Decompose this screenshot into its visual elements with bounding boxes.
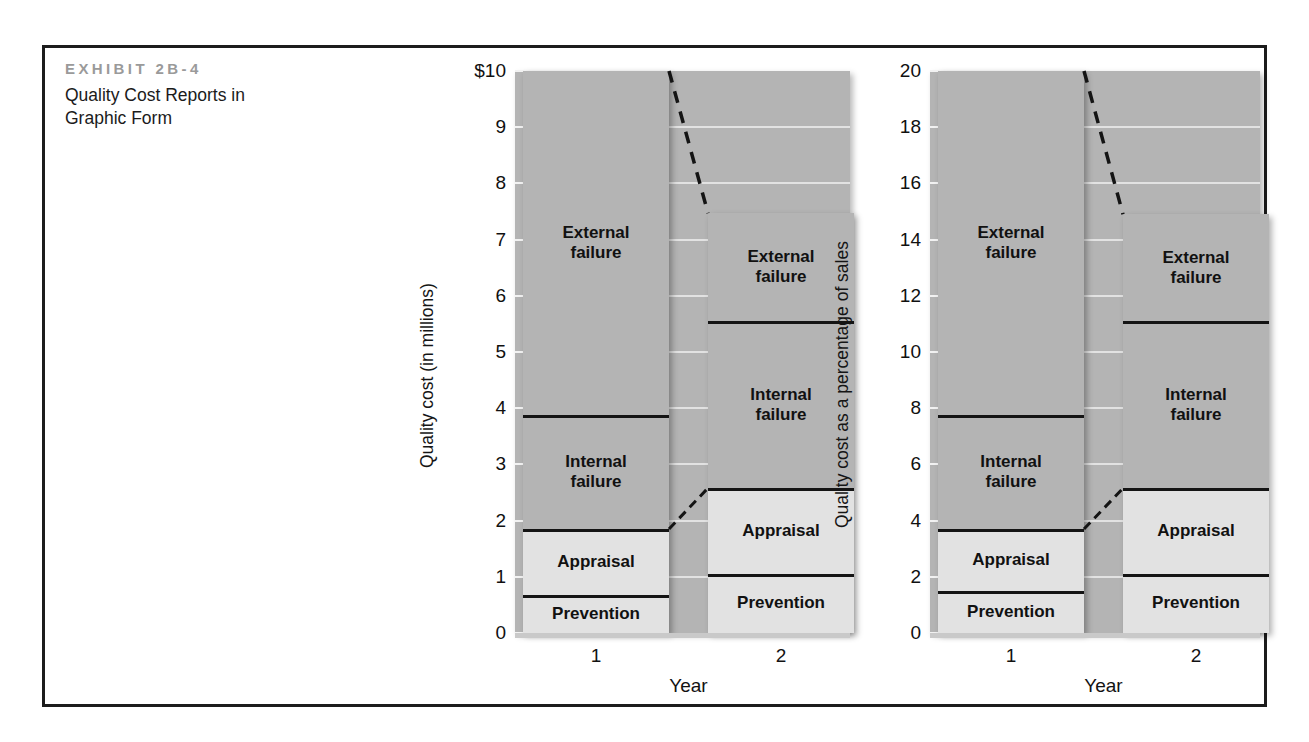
bar-segment-appraisal: Appraisal — [1123, 488, 1269, 574]
plot-area: 02468101214161820PreventionAppraisalInte… — [930, 71, 1260, 633]
bar-segment-internal-failure: Internalfailure — [523, 415, 669, 529]
y-axis-tick-label: 7 — [495, 229, 506, 251]
bar-segment-internal-failure: Internalfailure — [1123, 321, 1269, 488]
bar-segment-prevention: Prevention — [938, 591, 1084, 633]
y-axis-tick-label: 1 — [495, 566, 506, 588]
x-axis-tick-label: 1 — [591, 645, 602, 667]
bar-segment-internal-failure: Internalfailure — [938, 415, 1084, 529]
y-axis-tick-label: 4 — [910, 510, 921, 532]
y-axis-tick-label: 2 — [495, 510, 506, 532]
y-axis-tick-label: 8 — [910, 397, 921, 419]
exhibit-frame: EXHIBIT 2B-4 Quality Cost Reports in Gra… — [42, 45, 1267, 707]
y-axis-tick-label: 18 — [900, 116, 921, 138]
bar-segment-label: Externalfailure — [562, 223, 629, 263]
bar-segment-external-failure: Externalfailure — [523, 71, 669, 415]
bar-segment-label: Prevention — [1152, 593, 1240, 613]
bar-segment-label: Prevention — [552, 604, 640, 624]
bar-segment-appraisal: Appraisal — [523, 529, 669, 595]
x-axis-tick-label: 1 — [1006, 645, 1017, 667]
bar-segment-prevention: Prevention — [523, 595, 669, 633]
y-axis-tick-label: 9 — [495, 116, 506, 138]
exhibit-caption: EXHIBIT 2B-4 Quality Cost Reports in Gra… — [65, 60, 365, 131]
y-axis-tick-label: 4 — [495, 397, 506, 419]
bar-segment-external-failure: Externalfailure — [938, 71, 1084, 415]
bar-segment-label: Externalfailure — [1162, 248, 1229, 288]
bar-segment-label: Externalfailure — [977, 223, 1044, 263]
y-axis-tick-label: 2 — [910, 566, 921, 588]
y-axis-title: Quality cost as a percentage of sales — [832, 241, 853, 528]
y-axis-tick-label: 6 — [910, 453, 921, 475]
y-axis-tick-label: 0 — [495, 622, 506, 644]
y-axis-title: Quality cost (in millions) — [417, 283, 438, 468]
bar-segment-label: Internalfailure — [565, 452, 626, 492]
x-axis-tick-label: 2 — [776, 645, 787, 667]
y-axis-tick-label: 12 — [900, 285, 921, 307]
bar-segment-appraisal: Appraisal — [938, 529, 1084, 591]
exhibit-label: EXHIBIT 2B-4 — [65, 60, 365, 77]
y-axis-tick-label: 10 — [900, 341, 921, 363]
chart-quality-cost-percent-of-sales: Quality cost as a percentage of sales024… — [790, 48, 1220, 710]
bar-segment-prevention: Prevention — [1123, 574, 1269, 633]
bar-segment-label: Prevention — [967, 602, 1055, 622]
x-axis-line — [930, 633, 1260, 638]
x-axis-title: Year — [1084, 675, 1122, 697]
y-axis-tick-label: 16 — [900, 172, 921, 194]
bar-year-1: PreventionAppraisalInternalfailureExtern… — [938, 71, 1084, 633]
y-axis-tick-label: $10 — [474, 60, 506, 82]
x-axis-title: Year — [669, 675, 707, 697]
y-axis-tick-label: 0 — [910, 622, 921, 644]
x-axis-tick-label: 2 — [1191, 645, 1202, 667]
bar-segment-label: Appraisal — [1157, 521, 1234, 541]
y-axis-tick-label: 6 — [495, 285, 506, 307]
bar-year-1: PreventionAppraisalInternalfailureExtern… — [523, 71, 669, 633]
y-axis-tick-label: 14 — [900, 229, 921, 251]
y-axis-tick-label: 8 — [495, 172, 506, 194]
bar-segment-label: Internalfailure — [1165, 385, 1226, 425]
y-axis-tick-label: 3 — [495, 453, 506, 475]
y-axis-tick-label: 20 — [900, 60, 921, 82]
bar-segment-external-failure: Externalfailure — [1123, 214, 1269, 321]
bar-year-2: PreventionAppraisalInternalfailureExtern… — [1123, 214, 1269, 633]
exhibit-title: Quality Cost Reports in Graphic Form — [65, 84, 280, 131]
bar-segment-label: Appraisal — [557, 552, 634, 572]
chart-quality-cost-millions: Quality cost (in millions)0123456789$10P… — [375, 48, 805, 710]
bar-segment-label: Appraisal — [972, 550, 1049, 570]
bar-segment-label: Internalfailure — [980, 452, 1041, 492]
y-axis-tick-label: 5 — [495, 341, 506, 363]
